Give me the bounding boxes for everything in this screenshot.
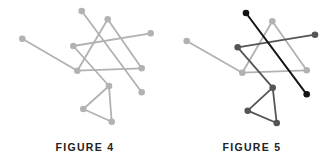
graph-node: [303, 67, 310, 74]
graph-node: [138, 89, 145, 96]
figure-5-graph: [183, 10, 318, 127]
graph-node: [19, 35, 26, 42]
graph-edge: [238, 47, 273, 87]
graph-node: [74, 67, 81, 74]
graph-node: [104, 16, 111, 23]
graph-node: [80, 106, 87, 113]
graph-edge: [73, 46, 109, 86]
figure-4-graph: [19, 8, 154, 125]
graph-node: [243, 10, 250, 17]
graph-node: [303, 91, 310, 98]
graph-edge: [22, 39, 77, 71]
graph-edge: [83, 86, 109, 109]
figures-canvas: [0, 0, 334, 157]
graph-node: [239, 69, 246, 76]
graph-node: [106, 83, 113, 90]
graph-edge: [273, 88, 277, 123]
graph-node: [312, 31, 319, 38]
graph-node: [78, 8, 85, 15]
graph-edge: [238, 35, 315, 48]
graph-edge: [77, 68, 141, 70]
graph-edge: [82, 11, 142, 92]
figure-5-caption: FIGURE 5: [223, 141, 282, 153]
graph-edge: [108, 19, 142, 68]
graph-node: [147, 30, 154, 37]
graph-edge: [109, 86, 112, 122]
graph-node: [138, 65, 145, 72]
graph-node: [244, 107, 251, 114]
graph-edge: [83, 109, 111, 122]
graph-edge: [248, 88, 273, 111]
graph-edge: [187, 41, 243, 73]
graph-edge: [73, 33, 150, 46]
graph-edge: [246, 13, 307, 94]
graph-node: [108, 118, 115, 125]
graph-edge: [248, 111, 277, 123]
graph-node: [273, 120, 280, 127]
graph-edge: [242, 70, 306, 72]
graph-node: [269, 84, 276, 91]
figure-4-caption: FIGURE 4: [56, 141, 115, 153]
graph-node: [269, 18, 276, 25]
graph-node: [234, 44, 241, 51]
graph-node: [183, 38, 190, 45]
graph-edge: [272, 21, 306, 70]
graph-node: [70, 43, 77, 50]
